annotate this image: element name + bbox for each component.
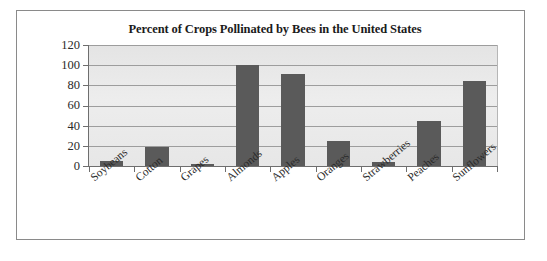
y-axis-line [88,45,89,167]
y-tick-label-120: 120 [40,39,80,52]
y-tick-label-80: 80 [40,79,80,92]
chart-title: Percent of Crops Pollinated by Bees in t… [70,22,480,37]
y-tick-label-20: 20 [40,140,80,153]
y-tick-label-60: 60 [40,99,80,112]
y-tick-label-100: 100 [40,59,80,72]
plot-area [89,45,498,166]
y-tick-label-0: 0 [40,160,80,173]
chart-figure: Percent of Crops Pollinated by Bees in t… [0,0,547,261]
gridline-120 [89,45,497,46]
x-tick-mark-9 [497,167,498,172]
y-tick-label-40: 40 [40,120,80,133]
gridline-100 [89,65,497,66]
y-axis-tick-labels: 120 100 80 60 40 20 0 [38,0,80,261]
